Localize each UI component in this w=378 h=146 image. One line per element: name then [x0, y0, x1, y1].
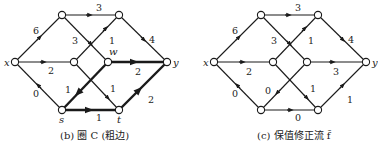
node-y [362, 58, 369, 65]
node-label-x: x [4, 57, 10, 68]
node-mid-left [269, 58, 276, 65]
edge-x-topleft [214, 15, 261, 62]
caption-b: (b) 圈 C (粗边) [60, 130, 129, 141]
label-c-midleft-t: 1 [310, 83, 316, 94]
label-b-midleft-t: 1 [110, 83, 116, 94]
panel-c-corrected-flow: 6 3 3 1 4 2 3 0 1 0 0 1 x y (c) 保值修正流 f̃ [203, 2, 378, 141]
node-x [210, 58, 217, 65]
edge-topright-y [119, 15, 167, 62]
label-c-w-y: 3 [333, 66, 339, 77]
label-b-x-topleft: 6 [33, 25, 39, 36]
node-label-y: y [371, 57, 378, 68]
label-c-w-s: 0 [265, 85, 271, 96]
node-s [58, 106, 65, 113]
label-c-x-topleft: 6 [232, 25, 238, 36]
edge-x-topleft [15, 15, 62, 62]
node-y [163, 58, 170, 65]
node-top-right [115, 11, 122, 18]
edge-s-x [15, 62, 62, 110]
label-b-topleft-topright: 3 [96, 2, 102, 13]
label-b-s-x: 0 [33, 88, 39, 99]
node-w [303, 58, 310, 65]
edge-topleft-w [261, 15, 307, 62]
node-top-left [257, 11, 264, 18]
label-b-midleft-topright: 1 [109, 35, 115, 46]
node-s [257, 106, 264, 113]
edge-s-x [214, 62, 261, 110]
label-b-t-y: 2 [148, 94, 154, 105]
label-b-x-midleft: 2 [48, 65, 54, 76]
node-label-x: x [203, 57, 209, 68]
label-c-topleft-w: 3 [271, 35, 277, 46]
label-b-w-s: 1 [65, 84, 71, 95]
label-c-s-x: 0 [232, 88, 238, 99]
node-label-s: s [59, 114, 64, 125]
label-b-topright-y: 4 [149, 34, 155, 45]
edge-t-y-bold [119, 62, 167, 110]
label-c-topleft-topright: 3 [295, 2, 301, 13]
node-mid-left [70, 58, 77, 65]
node-top-left [58, 11, 65, 18]
label-b-w-y: 2 [135, 66, 141, 77]
flow-network-figure: 6 3 3 1 4 2 2 1 1 0 1 2 x y w s t (b) 圈 … [0, 0, 378, 146]
node-label-y: y [172, 57, 179, 68]
label-c-s-t: 0 [295, 112, 301, 123]
node-top-right [314, 11, 321, 18]
node-t [115, 106, 122, 113]
label-c-midleft-topright: 1 [308, 35, 314, 46]
label-c-t-y: 1 [347, 94, 353, 105]
node-label-t: t [117, 114, 122, 125]
edge-topright-y [318, 15, 366, 62]
label-c-topright-y: 4 [348, 34, 354, 45]
label-c-x-midleft: 2 [246, 66, 252, 77]
label-b-topleft-w: 3 [72, 35, 78, 46]
edge-t-y [318, 62, 366, 110]
node-w [104, 58, 111, 65]
node-t [314, 106, 321, 113]
edge-topleft-w [62, 15, 108, 62]
node-x [11, 58, 18, 65]
node-label-w: w [109, 46, 118, 57]
panel-b-circuit: 6 3 3 1 4 2 2 1 1 0 1 2 x y w s t (b) 圈 … [4, 2, 179, 141]
label-b-s-t: 1 [96, 112, 102, 123]
caption-c: (c) 保值修正流 f̃ [257, 129, 332, 141]
